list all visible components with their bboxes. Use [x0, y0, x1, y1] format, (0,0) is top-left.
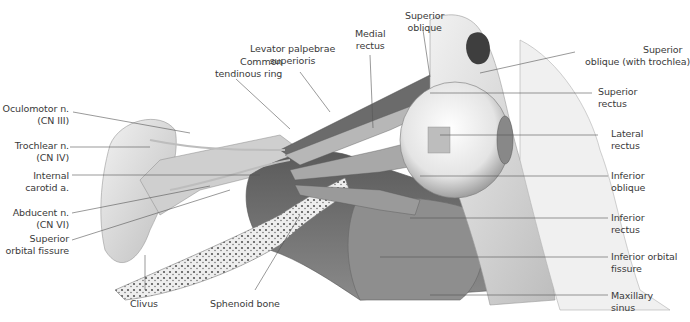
label-inferior-rectus: Inferior rectus — [611, 212, 644, 235]
label-internal-carotid-artery: Internal carotid a. — [25, 170, 69, 193]
label-superior-rectus: Superior rectus — [598, 86, 637, 109]
label-maxillary-sinus: Maxillary sinus — [611, 290, 653, 313]
label-sphenoid-bone: Sphenoid bone — [210, 298, 280, 310]
label-inferior-orbital-fissure: Inferior orbital fissure — [611, 251, 677, 274]
label-superior-orbital-fissure: Superior orbital fissure — [5, 233, 69, 256]
label-superior-oblique: Superior oblique — [405, 10, 444, 33]
label-oculomotor-nerve: Oculomotor n. (CN III) — [3, 103, 69, 126]
label-inferior-oblique: Inferior oblique — [611, 170, 645, 193]
label-levator-palpebrae-superioris: Levator palpebrae superioris — [250, 43, 335, 66]
label-trochlear-nerve: Trochlear n. (CN IV) — [15, 140, 69, 163]
label-lateral-rectus: Lateral rectus — [611, 128, 643, 151]
maxillary-sinus-shape — [348, 198, 484, 300]
label-superior-oblique-trochlea: Superior oblique (with trochlea) — [585, 44, 690, 67]
label-abducent-nerve: Abducent n. (CN VI) — [13, 207, 69, 230]
label-clivus: Clivus — [130, 298, 158, 310]
label-medial-rectus: Medial rectus — [355, 28, 386, 51]
